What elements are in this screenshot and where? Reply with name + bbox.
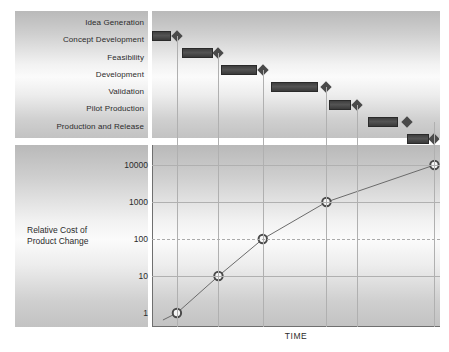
gantt-bar	[368, 117, 398, 127]
y-tick-label: 10000	[124, 160, 148, 170]
cost-line-series	[152, 145, 440, 327]
gantt-bar	[271, 82, 318, 92]
phase-label: Concept Development	[63, 31, 144, 48]
gantt-row	[152, 97, 440, 114]
gantt-row	[152, 62, 440, 79]
y-tick-label: 1	[143, 308, 148, 318]
gantt-row	[152, 45, 440, 62]
phase-label: Production and Release	[56, 118, 144, 135]
phase-label: Pilot Production	[86, 100, 144, 117]
gantt-bar	[407, 134, 429, 144]
gantt-bar	[329, 100, 351, 110]
phase-label: Validation	[108, 83, 144, 100]
gantt-bar	[182, 48, 212, 58]
x-axis-title: TIME	[152, 331, 440, 341]
phase-label: Feasibility	[107, 49, 144, 66]
gantt-bar	[152, 31, 171, 41]
cost-gridline	[152, 165, 440, 166]
cost-chart-panel	[152, 145, 440, 327]
cost-gridline	[152, 239, 440, 240]
connector-gridline	[326, 87, 327, 327]
gantt-row	[152, 114, 440, 131]
y-tick-label: 10	[139, 271, 148, 281]
phase-label: Idea Generation	[85, 14, 144, 31]
y-tick-labels: 100001000100101	[95, 145, 148, 327]
connector-gridline	[177, 36, 178, 328]
phase-label-panel: Idea GenerationConcept DevelopmentFeasib…	[15, 11, 148, 138]
phase-label: Development	[96, 66, 144, 83]
connector-gridline	[218, 53, 219, 327]
gantt-row	[152, 28, 440, 45]
y-tick-label: 100	[134, 234, 148, 244]
connector-gridline	[357, 105, 358, 327]
gantt-row	[152, 79, 440, 96]
gantt-chart-panel	[152, 11, 440, 138]
cost-gridline	[152, 202, 440, 203]
gantt-rows	[152, 11, 440, 138]
connector-gridline	[263, 70, 264, 327]
cost-trend-line	[163, 165, 435, 320]
connector-gridline	[434, 122, 435, 327]
milestone-diamond	[401, 116, 412, 127]
cost-gridline	[152, 276, 440, 277]
y-tick-label: 1000	[129, 197, 148, 207]
y-axis-title: Relative Cost of Product Change	[27, 225, 88, 247]
gantt-bar	[221, 65, 257, 75]
